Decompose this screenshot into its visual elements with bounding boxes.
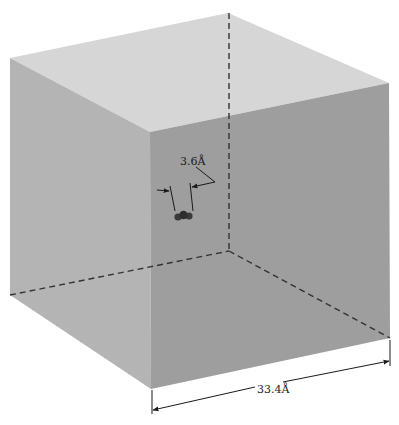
cube-diagram: 3.6Å 33.4Å <box>0 0 399 425</box>
box-edge-length-label: 33.4Å <box>257 382 290 396</box>
box-dim-line-left <box>153 387 255 410</box>
box-dim-line-right <box>283 361 389 382</box>
molecule-size-label: 3.6Å <box>180 154 206 168</box>
atom-center <box>179 211 187 219</box>
cube-right-face <box>150 83 390 389</box>
